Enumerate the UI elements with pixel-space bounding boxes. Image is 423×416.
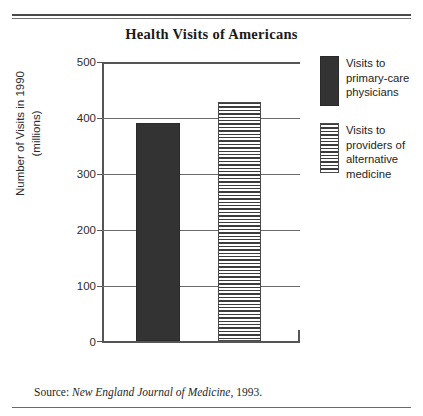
y-tick-200 [97, 230, 102, 231]
source-publication: New England Journal of Medicine [72, 386, 230, 398]
chart-title: Health Visits of Americans [0, 26, 423, 43]
y-tick-500 [97, 62, 102, 63]
chart-figure: Health Visits of Americans 500 400 300 2… [0, 0, 423, 416]
gridline-100 [102, 286, 300, 287]
y-tick-400 [97, 118, 102, 119]
y-tick-label-300: 300 [77, 168, 96, 180]
y-tick-label-500: 500 [77, 56, 96, 68]
chart-legend: Visits to primary-care physicians Visits… [320, 56, 420, 199]
source-prefix: Source: [34, 386, 72, 398]
y-tick-0 [97, 341, 102, 342]
bottom-rule [12, 407, 411, 408]
y-axis-title-line2: (millions) [29, 39, 45, 229]
y-tick-label-100: 100 [77, 280, 96, 292]
x-axis-line [102, 341, 300, 343]
plot-top-border [102, 62, 300, 64]
legend-label-alternative-medicine: Visits to providers of alternative medic… [346, 123, 405, 182]
y-tick-label-400: 400 [77, 112, 96, 124]
source-suffix: , 1993. [230, 386, 262, 398]
top-rule-thick [12, 14, 411, 16]
y-tick-300 [97, 174, 102, 175]
y-tick-label-0: 0 [90, 336, 96, 348]
x-axis-right-tick [298, 330, 300, 343]
bar-primary-care [136, 123, 180, 342]
gridline-300 [102, 174, 300, 175]
y-axis-title: Number of Visits in 1990 (millions) [13, 39, 44, 229]
plot-area [102, 62, 300, 343]
top-rule-thin [12, 18, 411, 19]
y-tick-100 [97, 286, 102, 287]
legend-label-primary-care: Visits to primary-care physicians [346, 56, 409, 100]
bar-alternative-medicine [218, 102, 261, 341]
legend-item-primary-care: Visits to primary-care physicians [320, 56, 420, 106]
legend-swatch-striped-icon [320, 123, 339, 173]
gridline-200 [102, 230, 300, 231]
gridline-400 [102, 118, 300, 119]
legend-swatch-solid-icon [320, 56, 339, 106]
y-axis-title-line1: Number of Visits in 1990 [13, 39, 29, 229]
source-note: Source: New England Journal of Medicine,… [34, 386, 262, 398]
y-axis-tick-labels: 500 400 300 200 100 0 [62, 62, 96, 343]
y-axis-line [102, 62, 104, 343]
legend-item-alternative-medicine: Visits to providers of alternative medic… [320, 123, 420, 182]
y-tick-label-200: 200 [77, 224, 96, 236]
